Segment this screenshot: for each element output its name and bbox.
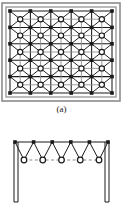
bottom-layer-node	[18, 33, 23, 38]
plan-view-diagram	[0, 0, 123, 104]
top-layer-node	[8, 26, 12, 30]
panel-a-plan-view: (a)	[0, 0, 123, 125]
bottom-layer-node	[58, 33, 63, 38]
figure-root: (a) (b)	[0, 0, 123, 215]
top-layer-node	[69, 75, 73, 79]
bottom-layer-node	[18, 82, 23, 87]
top-layer-node	[8, 9, 12, 13]
bottom-layer-node	[38, 33, 43, 38]
top-layer-node	[90, 91, 94, 95]
top-layer-node	[49, 58, 53, 62]
top-layer-node	[29, 26, 33, 30]
top-layer-node	[90, 75, 94, 79]
top-layer-node	[8, 75, 12, 79]
top-layer-node	[90, 26, 94, 30]
top-layer-node	[49, 42, 53, 46]
bottom-layer-node	[38, 17, 43, 22]
top-layer-node	[110, 58, 114, 62]
bottom-chord-node	[40, 157, 46, 163]
bottom-layer-node	[58, 17, 63, 22]
top-layer-node	[29, 58, 33, 62]
top-layer-node	[110, 42, 114, 46]
top-layer-node	[8, 91, 12, 95]
top-layer-node	[29, 75, 33, 79]
top-layer-node	[69, 91, 73, 95]
panel-b-elevation-view: (b)	[0, 128, 123, 215]
top-layer-node	[8, 58, 12, 62]
top-layer-node	[49, 26, 53, 30]
top-chord-node	[50, 140, 54, 144]
top-layer-node	[110, 9, 114, 13]
bottom-chord-node	[21, 157, 27, 163]
top-layer-node	[110, 26, 114, 30]
top-layer-node	[69, 9, 73, 13]
bottom-layer-node	[99, 17, 104, 22]
bottom-layer-node	[99, 33, 104, 38]
bottom-chord-node	[77, 157, 83, 163]
bottom-layer-node	[18, 66, 23, 71]
top-layer-node	[69, 26, 73, 30]
bottom-chord-node	[59, 157, 65, 163]
bottom-layer-node	[99, 82, 104, 87]
top-layer-node	[110, 91, 114, 95]
bottom-layer-node	[79, 17, 84, 22]
bottom-layer-node	[38, 66, 43, 71]
bottom-layer-node	[58, 82, 63, 87]
top-layer-node	[69, 58, 73, 62]
elevation-view-diagram	[0, 128, 123, 208]
top-layer-node	[110, 75, 114, 79]
panel-a-caption: (a)	[0, 104, 123, 114]
bottom-layer-node	[18, 49, 23, 54]
top-layer-node	[69, 42, 73, 46]
top-layer-node	[49, 75, 53, 79]
bottom-layer-node	[58, 49, 63, 54]
bottom-layer-node	[99, 49, 104, 54]
top-chord-node	[69, 140, 73, 144]
top-layer-node	[29, 42, 33, 46]
top-layer-node	[90, 42, 94, 46]
bottom-layer-node	[38, 49, 43, 54]
bottom-chord-node	[96, 157, 102, 163]
top-layer-node	[29, 9, 33, 13]
top-layer-node	[90, 9, 94, 13]
bottom-layer-node	[79, 66, 84, 71]
bottom-layer-node	[99, 66, 104, 71]
top-chord-node	[88, 140, 92, 144]
top-chord-node	[32, 140, 36, 144]
top-layer-node	[8, 42, 12, 46]
bottom-layer-node	[79, 82, 84, 87]
top-chord-node	[106, 140, 110, 144]
bottom-layer-node	[18, 17, 23, 22]
top-layer-node	[90, 58, 94, 62]
top-layer-node	[29, 91, 33, 95]
bottom-layer-node	[58, 66, 63, 71]
top-layer-node	[49, 9, 53, 13]
top-chord-node	[13, 140, 17, 144]
bottom-layer-node	[38, 82, 43, 87]
top-layer-node	[49, 91, 53, 95]
bottom-layer-node	[79, 33, 84, 38]
bottom-layer-node	[79, 49, 84, 54]
